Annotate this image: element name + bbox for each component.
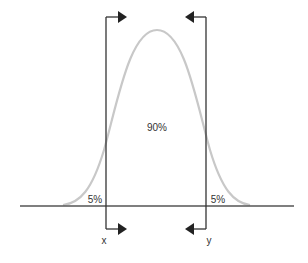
arrow-right-icon — [106, 223, 127, 235]
bell-curve — [63, 30, 250, 205]
right-tail-label: 5% — [211, 195, 225, 205]
right-bound-label: y — [207, 236, 212, 246]
left-bound-label: x — [102, 236, 107, 246]
left-tail-label: 5% — [88, 195, 102, 205]
arrow-left-icon — [185, 223, 206, 235]
arrow-left-icon — [185, 11, 206, 23]
diagram-canvas: 90% 5% 5% x y — [0, 0, 308, 263]
center-area-label: 90% — [147, 123, 167, 133]
arrow-right-icon — [106, 11, 127, 23]
